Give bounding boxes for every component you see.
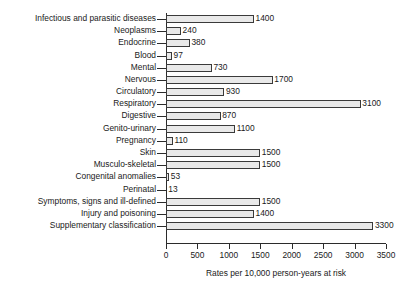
category-label: Neoplasms	[0, 25, 156, 35]
bar	[166, 27, 181, 35]
bar	[166, 222, 373, 230]
bar	[166, 125, 235, 133]
y-axis-tick	[157, 190, 166, 191]
bar-value-label: 13	[168, 184, 177, 194]
x-axis-tick	[166, 244, 167, 249]
y-axis-tick	[157, 177, 166, 178]
bar-row: Nervous1700	[0, 75, 413, 87]
x-axis-tick-label: 1000	[220, 250, 239, 260]
bar	[166, 149, 260, 157]
bar	[166, 137, 173, 145]
x-axis-tick-label: 2000	[282, 250, 301, 260]
bar-row: Blood97	[0, 51, 413, 63]
category-label: Pregnancy	[0, 135, 156, 145]
y-axis-tick	[157, 129, 166, 130]
bar-value-label: 930	[226, 86, 240, 96]
y-axis-tick	[157, 116, 166, 117]
x-axis-tick-label: 0	[164, 250, 169, 260]
x-axis-tick	[386, 244, 387, 249]
y-axis-tick	[157, 19, 166, 20]
y-axis-tick	[157, 214, 166, 215]
bar-row: Supplementary classification3300	[0, 221, 413, 233]
category-label: Injury and poisoning	[0, 208, 156, 218]
bar	[166, 52, 172, 60]
y-axis-tick	[157, 80, 166, 81]
bar-row: Respiratory3100	[0, 99, 413, 111]
bar-value-label: 380	[191, 37, 205, 47]
x-axis-tick	[323, 244, 324, 249]
x-axis-tick-label: 500	[190, 250, 204, 260]
bar	[166, 210, 254, 218]
bar-value-label: 1100	[237, 123, 255, 133]
x-axis-tick	[355, 244, 356, 249]
bar-value-label: 1500	[262, 159, 281, 169]
bar	[166, 64, 212, 72]
x-axis-tick	[260, 244, 261, 249]
bar	[166, 15, 254, 23]
category-label: Circulatory	[0, 86, 156, 96]
category-label: Endocrine	[0, 37, 156, 47]
x-axis-tick-label: 1500	[251, 250, 270, 260]
bar-row: Skin1500	[0, 148, 413, 160]
x-axis-tick	[292, 244, 293, 249]
y-axis-tick	[157, 165, 166, 166]
bar-value-label: 870	[222, 110, 236, 120]
bar-value-label: 3100	[362, 98, 381, 108]
bar-row: Genito-urinary1100	[0, 124, 413, 136]
y-axis-tick	[157, 153, 166, 154]
bar-value-label: 730	[213, 62, 227, 72]
category-label: Respiratory	[0, 98, 156, 108]
bar-value-label: 1500	[262, 196, 281, 206]
category-label: Supplementary classification	[0, 220, 156, 230]
bar-value-label: 3300	[375, 220, 394, 230]
bar-row: Neoplasms240	[0, 26, 413, 38]
bar	[166, 100, 361, 108]
category-label: Symptoms, signs and ill-defined	[0, 196, 156, 206]
x-axis-tick	[197, 244, 198, 249]
y-axis-tick	[157, 104, 166, 105]
category-label: Congenital anomalies	[0, 171, 156, 181]
x-axis-line	[166, 243, 386, 244]
bar-value-label: 1400	[256, 208, 275, 218]
category-label: Skin	[0, 147, 156, 157]
y-axis-tick	[157, 202, 166, 203]
x-axis-tick-label: 2500	[314, 250, 333, 260]
y-axis-tick	[157, 31, 166, 32]
x-axis-tick-label: 3500	[377, 250, 396, 260]
x-axis-title: Rates per 10,000 person-years at risk	[166, 268, 386, 279]
bar-value-label: 1700	[274, 74, 293, 84]
category-label: Digestive	[0, 110, 156, 120]
category-label: Genito-urinary	[0, 123, 156, 133]
category-label: Perinatal	[0, 184, 156, 194]
y-axis-tick	[157, 68, 166, 69]
bar-value-label: 240	[183, 25, 197, 35]
y-axis-tick	[157, 56, 166, 57]
category-label: Infectious and parasitic diseases	[0, 13, 156, 23]
bar	[166, 198, 260, 206]
category-label: Blood	[0, 50, 156, 60]
bar-value-label: 110	[174, 135, 187, 145]
bar-row: Congenital anomalies53	[0, 172, 413, 184]
horizontal-bar-chart: Rates per 10,000 person-years at risk In…	[0, 0, 413, 287]
y-axis-tick	[157, 226, 166, 227]
bar	[166, 76, 273, 84]
y-axis-tick	[157, 43, 166, 44]
bar-value-label: 53	[171, 171, 180, 181]
category-label: Musculo-skeletal	[0, 159, 156, 169]
bar	[166, 112, 221, 120]
y-axis-tick	[157, 92, 166, 93]
bar	[166, 88, 224, 96]
x-axis-tick-label: 3000	[345, 250, 364, 260]
bar	[166, 161, 260, 169]
x-axis-tick	[229, 244, 230, 249]
bar-row: Symptoms, signs and ill-defined1500	[0, 197, 413, 209]
bar-value-label: 97	[174, 50, 183, 60]
category-label: Nervous	[0, 74, 156, 84]
bar-value-label: 1400	[256, 13, 275, 23]
bar-value-label: 1500	[262, 147, 281, 157]
y-axis-tick	[157, 141, 166, 142]
category-label: Mental	[0, 62, 156, 72]
bar	[166, 39, 190, 47]
bar	[166, 173, 169, 181]
